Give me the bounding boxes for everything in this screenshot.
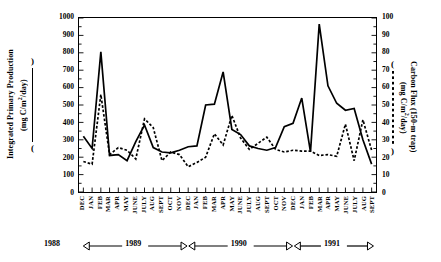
- legend-paren-close: (: [31, 145, 34, 152]
- legend-paren-open: ): [31, 58, 34, 65]
- x-label-june-18: JUNE: [237, 196, 244, 214]
- x-label-jan-13: JAN: [193, 196, 200, 209]
- x-label-jan-1: JAN: [88, 196, 95, 209]
- right-tick-60: 60: [382, 83, 406, 91]
- right-tick-20: 20: [382, 154, 406, 162]
- x-label-may-17: MAY: [229, 196, 236, 211]
- right-tick-80: 80: [382, 48, 406, 56]
- x-label-dec-24: DEC: [290, 196, 297, 210]
- year-label-1990: 1990: [231, 239, 247, 248]
- x-label-aug-8: AUG: [149, 196, 156, 211]
- x-label-apr-28: APR: [325, 196, 332, 210]
- x-label-mar-3: MAR: [105, 196, 112, 212]
- x-label-nov-11: NOV: [176, 196, 183, 211]
- year-band: 1988198919901991: [0, 236, 441, 256]
- x-label-aug-20: AUG: [255, 196, 262, 211]
- right-tick-10: 10: [382, 171, 406, 179]
- left-tick-400: 400: [48, 119, 74, 127]
- year-band-arrows: [0, 236, 441, 256]
- left-axis-units-exponent: 2: [17, 97, 23, 100]
- x-label-june-6: JUNE: [132, 196, 139, 214]
- series-line-primary-production: [83, 24, 371, 164]
- left-tick-800: 800: [48, 48, 74, 56]
- left-tick-300: 300: [48, 136, 74, 144]
- chart-figure: Integrated Primary Production (mg C/m2/d…: [0, 0, 441, 262]
- right-tick-50: 50: [382, 101, 406, 109]
- left-axis-title: Integrated Primary Production: [6, 24, 15, 184]
- plot-area: [78, 17, 377, 193]
- right-tick-40: 40: [382, 119, 406, 127]
- year-label-1988: 1988: [44, 239, 60, 248]
- x-label-sept-21: SEPT: [264, 196, 271, 213]
- x-label-feb-26: FEB: [308, 196, 315, 209]
- x-label-dec-12: DEC: [185, 196, 192, 210]
- x-label-june-30: JUNE: [343, 196, 350, 214]
- x-axis-tick-labels: DECJANFEBMARAPRMAYJUNEJULYAUGSEPTOCTNOVD…: [78, 196, 377, 232]
- plot-svg: [79, 18, 376, 192]
- x-label-mar-27: MAR: [317, 196, 324, 212]
- x-label-aug-32: AUG: [361, 196, 368, 211]
- x-label-july-19: JULY: [246, 196, 253, 213]
- x-label-may-29: MAY: [334, 196, 341, 211]
- year-label-1991: 1991: [324, 239, 340, 248]
- x-label-jan-25: JAN: [299, 196, 306, 209]
- x-label-july-31: JULY: [352, 196, 359, 213]
- left-tick-900: 900: [48, 31, 74, 39]
- x-label-feb-2: FEB: [97, 196, 104, 209]
- left-tick-100: 100: [48, 171, 74, 179]
- right-tick-100: 100: [382, 13, 406, 21]
- x-label-dec-0: DEC: [79, 196, 86, 210]
- x-label-oct-22: OCT: [273, 196, 280, 211]
- x-label-nov-23: NOV: [281, 196, 288, 211]
- right-tick-0: 0: [382, 189, 406, 197]
- right-tick-90: 90: [382, 31, 406, 39]
- x-label-may-5: MAY: [123, 196, 130, 211]
- x-label-oct-10: OCT: [167, 196, 174, 211]
- right-axis-title: Carbon Flux (150-m trap): [409, 28, 418, 186]
- left-tick-200: 200: [48, 154, 74, 162]
- x-label-sept-33: SEPT: [369, 196, 376, 213]
- left-tick-1000: 1000: [48, 13, 74, 21]
- x-label-july-7: JULY: [141, 196, 148, 213]
- year-label-1989: 1989: [125, 239, 141, 248]
- x-label-apr-16: APR: [220, 196, 227, 210]
- x-label-sept-9: SEPT: [158, 196, 165, 213]
- solid-line-swatch-icon: [32, 68, 34, 142]
- left-tick-600: 600: [48, 83, 74, 91]
- x-label-feb-14: FEB: [202, 196, 209, 209]
- left-tick-700: 700: [48, 66, 74, 74]
- right-tick-30: 30: [382, 136, 406, 144]
- x-label-mar-15: MAR: [211, 196, 218, 212]
- left-tick-0: 0: [48, 189, 74, 197]
- left-tick-500: 500: [48, 101, 74, 109]
- right-tick-70: 70: [382, 66, 406, 74]
- x-label-apr-4: APR: [114, 196, 121, 210]
- legend-primary-production: ) (: [26, 46, 39, 164]
